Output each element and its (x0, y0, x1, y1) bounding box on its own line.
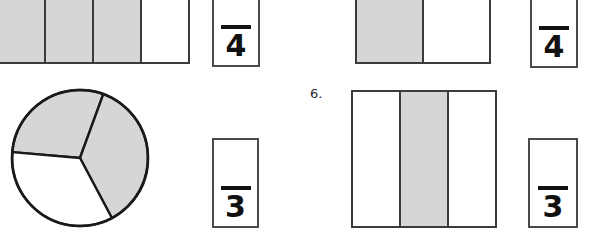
denominator-bottom-right: 3 (543, 192, 564, 222)
denominator-bottom-left: 3 (225, 192, 246, 222)
worksheet-canvas: 4 4 3 6. 3 (0, 0, 590, 240)
fraction-bar-bottom-right (351, 90, 497, 228)
bar-cell (94, 0, 142, 62)
bar-cell (46, 0, 94, 62)
answer-box-bottom-left[interactable]: 3 (212, 138, 259, 228)
bar-cell (424, 0, 489, 62)
denominator-top-right: 4 (544, 32, 565, 62)
bar-cell (353, 92, 401, 226)
answer-box-top-right[interactable]: 4 (530, 0, 578, 68)
answer-box-top-left[interactable]: 4 (212, 0, 260, 67)
answer-box-bottom-right[interactable]: 3 (528, 138, 578, 228)
fraction-circle-bottom-left (8, 86, 152, 230)
pie-svg (8, 86, 152, 230)
bar-cell (0, 0, 46, 62)
item-number-label-6: 6. (310, 86, 322, 101)
denominator-top-left: 4 (226, 31, 247, 61)
bar-cell (357, 0, 424, 62)
bar-cell (401, 92, 449, 226)
bar-cell (142, 0, 188, 62)
fraction-bar-top-right (355, 0, 491, 64)
bar-cell (449, 92, 495, 226)
fraction-bar-top-left (0, 0, 190, 64)
